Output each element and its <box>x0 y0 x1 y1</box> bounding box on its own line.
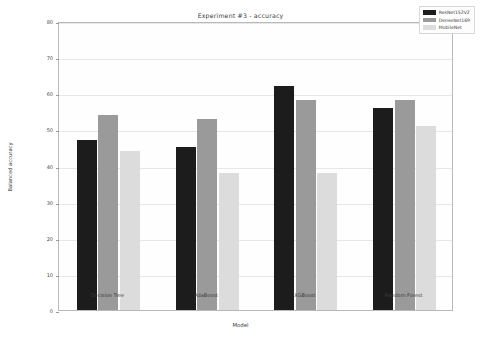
legend-label: MobileNet <box>439 25 462 30</box>
y-tick-label: 30 <box>20 200 53 206</box>
legend-swatch <box>423 18 436 23</box>
x-tick-label: AdaBoost <box>194 292 218 298</box>
bar <box>274 86 294 310</box>
bar <box>98 115 118 310</box>
legend-item[interactable]: MobileNet <box>423 25 470 30</box>
bar <box>77 140 97 310</box>
legend-label: DenseNet169 <box>439 18 470 23</box>
x-tick-label: Decision Tree <box>91 292 124 298</box>
bar <box>317 173 337 310</box>
y-tick-label: 50 <box>20 127 53 133</box>
legend-swatch <box>423 25 436 30</box>
legend: ResNet152V2DenseNet169MobileNet <box>419 6 475 34</box>
legend-item[interactable]: DenseNet169 <box>423 18 470 23</box>
chart-title: Experiment #3 - accuracy <box>0 12 481 19</box>
legend-label: ResNet152V2 <box>439 10 470 15</box>
x-tick-label: Random Forest <box>385 292 423 298</box>
plot-area <box>58 22 453 311</box>
legend-item[interactable]: ResNet152V2 <box>423 10 470 15</box>
bar <box>373 108 393 310</box>
y-tick-label: 20 <box>20 236 53 242</box>
y-tick-label: 60 <box>20 91 53 97</box>
bar <box>219 173 239 310</box>
x-axis-label: Model <box>0 322 481 328</box>
y-tick-label: 80 <box>20 19 53 25</box>
bar <box>197 119 217 310</box>
bar <box>416 126 436 310</box>
bars-layer <box>59 23 452 310</box>
x-tick-label: XGBoost <box>294 292 315 298</box>
y-tick-label: 0 <box>20 308 53 314</box>
y-tick-label: 70 <box>20 55 53 61</box>
bar <box>296 100 316 310</box>
chart-container: Experiment #3 - accuracy Balanced accura… <box>0 0 481 342</box>
bar <box>120 151 140 310</box>
y-tick-label: 40 <box>20 164 53 170</box>
y-tick-mark <box>56 312 59 313</box>
y-tick-label: 10 <box>20 272 53 278</box>
bar <box>176 147 196 310</box>
y-axis-label: Balanced accuracy <box>7 142 13 191</box>
legend-swatch <box>423 10 436 15</box>
bar <box>395 100 415 310</box>
